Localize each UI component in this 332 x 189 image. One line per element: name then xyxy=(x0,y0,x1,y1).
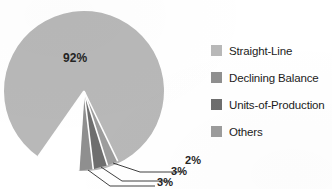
pie-chart-plot-area xyxy=(0,0,200,189)
pie-value-label-main: 92% xyxy=(63,51,87,65)
legend-swatch-icon xyxy=(211,99,222,110)
legend-swatch-icon xyxy=(211,45,222,56)
legend-item-units-of-production[interactable]: Units-of-Production xyxy=(211,91,332,118)
legend-item-declining-balance[interactable]: Declining Balance xyxy=(211,64,332,91)
pie-chart-figure: 92% 2% 3% 3% Straight-Line Declining Bal… xyxy=(0,0,332,189)
legend-label: Straight-Line xyxy=(229,45,292,57)
pie-value-label-3pct-low: 3% xyxy=(157,176,173,188)
legend-swatch-icon xyxy=(211,72,222,83)
legend-item-others[interactable]: Others xyxy=(211,118,332,145)
legend-label: Declining Balance xyxy=(229,72,319,84)
pie-chart-svg xyxy=(0,0,200,189)
legend-item-straight-line[interactable]: Straight-Line xyxy=(211,37,332,64)
legend-label: Others xyxy=(229,126,263,138)
pie-value-label-2pct: 2% xyxy=(185,154,201,166)
legend-swatch-icon xyxy=(211,126,222,137)
chart-legend: Straight-Line Declining Balance Units-of… xyxy=(211,37,332,145)
legend-label: Units-of-Production xyxy=(229,99,325,111)
pie-value-label-3pct-mid: 3% xyxy=(171,165,187,177)
